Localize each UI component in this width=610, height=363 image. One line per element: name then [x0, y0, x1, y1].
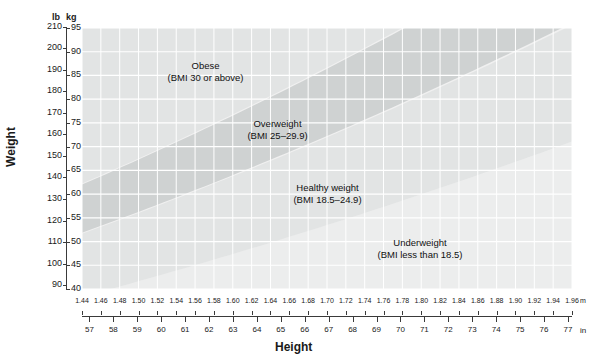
y-tick-label-lb: 130 [36, 194, 62, 203]
y-tick-label-lb: 210 [36, 22, 62, 31]
x-tick-label-in: 57 [78, 326, 100, 334]
x-tick-label-in: 58 [102, 326, 124, 334]
y-tick-mark-kg [66, 265, 70, 266]
y-tick-label-lb: 110 [36, 237, 62, 246]
x-tick-mark-in [472, 317, 473, 322]
x-tick-mark-m [515, 311, 516, 315]
x-tick-mark-in [281, 317, 282, 322]
x-axis-unit-m: m [580, 297, 586, 304]
x-tick-label-in: 71 [413, 326, 435, 334]
x-tick-mark-in [448, 317, 449, 322]
x-tick-label-in: 59 [126, 326, 148, 334]
y-tick-mark-lb [63, 285, 67, 286]
x-tick-mark-in [185, 317, 186, 322]
x-tick-label-in: 62 [198, 326, 220, 334]
y-tick-label-lb: 170 [36, 108, 62, 117]
annotation-healthy-range: (BMI 18.5–24.9) [240, 194, 415, 206]
annotation-underweight: Underweight (BMI less than 18.5) [330, 237, 510, 261]
annotation-overweight: Overweight (BMI 25–29.9) [190, 118, 365, 142]
x-tick-mark-in [544, 317, 545, 322]
x-tick-label-in: 76 [533, 326, 555, 334]
annotation-overweight-title: Overweight [190, 118, 365, 130]
x-tick-mark-in [329, 317, 330, 322]
x-tick-mark-m [233, 311, 234, 315]
annotation-overweight-range: (BMI 25–29.9) [190, 130, 365, 142]
x-tick-mark-m [252, 311, 253, 315]
x-tick-label-in: 64 [246, 326, 268, 334]
x-tick-mark-m [572, 311, 573, 315]
y-tick-mark-kg [66, 194, 70, 195]
y-tick-mark-lb [63, 177, 67, 178]
x-tick-mark-in [233, 317, 234, 322]
x-tick-mark-m [402, 311, 403, 315]
x-tick-mark-in [424, 317, 425, 322]
x-tick-label-in: 72 [437, 326, 459, 334]
x-tick-mark-m [497, 311, 498, 315]
x-tick-mark-m [101, 311, 102, 315]
x-tick-label-in: 67 [318, 326, 340, 334]
x-tick-label-in: 73 [461, 326, 483, 334]
y-tick-mark-lb [63, 199, 67, 200]
x-tick-mark-in [353, 317, 354, 322]
y-tick-label-lb: 100 [36, 259, 62, 268]
x-tick-label-in: 61 [174, 326, 196, 334]
y-tick-mark-kg [66, 123, 70, 124]
x-tick-label-in: 66 [294, 326, 316, 334]
y-tick-mark-lb [63, 156, 67, 157]
y-tick-label-lb: 90 [36, 280, 62, 289]
x-tick-mark-m [157, 311, 158, 315]
x-tick-mark-in [496, 317, 497, 322]
x-tick-mark-in [377, 317, 378, 322]
x-tick-label-in: 63 [222, 326, 244, 334]
x-tick-mark-m [120, 311, 121, 315]
x-tick-mark-in [257, 317, 258, 322]
annotation-obese-title: Obese [118, 60, 293, 72]
x-tick-mark-m [308, 311, 309, 315]
x-tick-mark-in [400, 317, 401, 322]
x-tick-label-in: 68 [342, 326, 364, 334]
y-tick-label-lb: 160 [36, 129, 62, 138]
x-tick-label-in: 75 [509, 326, 531, 334]
y-tick-label-lb: 150 [36, 151, 62, 160]
x-tick-mark-m [440, 311, 441, 315]
x-tick-mark-m [139, 311, 140, 315]
x-tick-mark-m [478, 311, 479, 315]
y-tick-label-lb: 140 [36, 172, 62, 181]
x-tick-mark-m [176, 311, 177, 315]
x-tick-mark-m [534, 311, 535, 315]
x-tick-mark-in [209, 317, 210, 322]
annotation-healthy-title: Healthy weight [240, 182, 415, 194]
y-tick-mark-lb [63, 91, 67, 92]
y-tick-mark-lb [63, 48, 67, 49]
x-tick-mark-m [82, 311, 83, 315]
x-tick-mark-in [568, 317, 569, 322]
y-tick-label-lb: 190 [36, 65, 62, 74]
x-tick-mark-m [270, 311, 271, 315]
y-tick-mark-kg [66, 218, 70, 219]
x-tick-label-in: 60 [150, 326, 172, 334]
x-tick-mark-m [327, 311, 328, 315]
y-tick-label-lb: 200 [36, 43, 62, 52]
x-tick-mark-m [421, 311, 422, 315]
x-tick-mark-m [384, 311, 385, 315]
x-tick-label-in: 74 [485, 326, 507, 334]
x-tick-mark-m [195, 311, 196, 315]
y-tick-mark-lb [63, 221, 67, 222]
annotation-underweight-range: (BMI less than 18.5) [330, 249, 510, 261]
x-axis-unit-in: in [580, 326, 586, 335]
x-tick-mark-m [289, 311, 290, 315]
y-tick-label-lb: 120 [36, 216, 62, 225]
annotation-obese-range: (BMI 30 or above) [118, 72, 293, 84]
y-tick-label-lb: 180 [36, 86, 62, 95]
y-tick-mark-kg [66, 99, 70, 100]
x-tick-label-in: 69 [366, 326, 388, 334]
y-tick-mark-kg [66, 289, 70, 290]
x-tick-mark-in [113, 317, 114, 322]
x-tick-label-in: 70 [389, 326, 411, 334]
x-tick-mark-m [346, 311, 347, 315]
x-tick-mark-in [137, 317, 138, 322]
x-tick-label-in: 65 [270, 326, 292, 334]
annotation-underweight-title: Underweight [330, 237, 510, 249]
y-tick-mark-kg [66, 170, 70, 171]
x-axis-line [82, 316, 572, 317]
